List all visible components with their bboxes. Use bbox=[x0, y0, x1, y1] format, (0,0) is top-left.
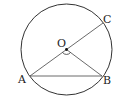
angle-aob-arc bbox=[63, 52, 71, 54]
geometry-diagram: O A B C bbox=[0, 0, 125, 97]
radius-ob bbox=[67, 50, 103, 77]
label-c: C bbox=[103, 13, 111, 26]
label-b: B bbox=[103, 74, 111, 87]
label-a: A bbox=[17, 73, 27, 86]
label-o: O bbox=[57, 37, 66, 50]
